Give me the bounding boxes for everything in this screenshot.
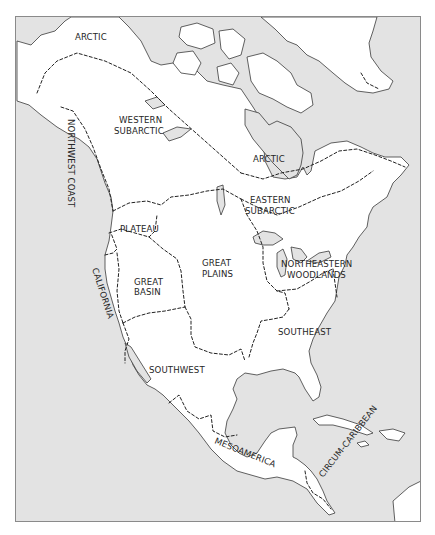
south-america-tip: [393, 481, 421, 522]
label-circum-caribbean: CIRCUM-CARIBBEAN: [317, 403, 379, 479]
label-southeast: SOUTHEAST: [278, 327, 332, 337]
label-eastern-subarctic: EASTERN SUBARCTIC: [245, 195, 295, 216]
arctic-island: [179, 23, 215, 49]
label-arctic-hudson: ARCTIC: [253, 154, 285, 164]
label-southwest: SOUTHWEST: [149, 365, 205, 375]
label-northeastern-woodlands: NORTHEASTERN WOODLANDS: [281, 259, 355, 280]
arctic-island: [217, 63, 239, 85]
hispaniola: [379, 429, 405, 441]
culture-areas-map: ARCTIC WESTERN SUBARCTIC NORTHWEST COAST…: [15, 16, 421, 522]
map-canvas: ARCTIC WESTERN SUBARCTIC NORTHWEST COAST…: [16, 17, 421, 522]
label-plateau: PLATEAU: [120, 224, 159, 234]
jamaica: [357, 441, 369, 447]
label-great-plains: GREAT PLAINS: [202, 258, 234, 279]
label-northwest-coast: NORTHWEST COAST: [66, 119, 76, 208]
arctic-island: [247, 53, 313, 113]
label-western-subarctic: WESTERN SUBARCTIC: [114, 115, 165, 136]
label-arctic-northwest: ARCTIC: [75, 32, 107, 42]
arctic-island: [219, 29, 245, 59]
